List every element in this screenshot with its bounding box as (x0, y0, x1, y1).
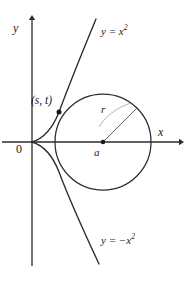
lower-parabola-label-text: y = −x (101, 234, 131, 246)
x-axis-arrowhead-icon (179, 139, 184, 145)
figure-canvas (0, 0, 188, 284)
lower-parabola-curve (32, 142, 99, 264)
x-axis-label: x (158, 126, 163, 138)
y-axis-label: y (13, 22, 18, 34)
x-axis (2, 139, 184, 145)
radius-line (103, 108, 137, 142)
origin-label: 0 (16, 143, 22, 155)
y-axis (29, 15, 35, 266)
radius-label: r (101, 104, 105, 115)
upper-parabola-label: y = x2 (101, 26, 127, 37)
circle-center-label: a (94, 147, 100, 158)
math-figure: y x 0 y = x2 y = −x2 (s, t) r a (0, 0, 188, 284)
upper-parabola-label-exponent: 2 (124, 23, 128, 32)
upper-parabola-label-text: y = x (101, 25, 124, 37)
tangency-point-label: (s, t) (31, 95, 52, 107)
lower-parabola-label: y = −x2 (101, 235, 135, 246)
lower-parabola-label-exponent: 2 (131, 232, 135, 241)
tangency-point-marker (57, 110, 62, 115)
circle-center-marker (101, 140, 106, 145)
upper-parabola-curve (32, 19, 96, 142)
y-axis-arrowhead-icon (29, 15, 35, 20)
